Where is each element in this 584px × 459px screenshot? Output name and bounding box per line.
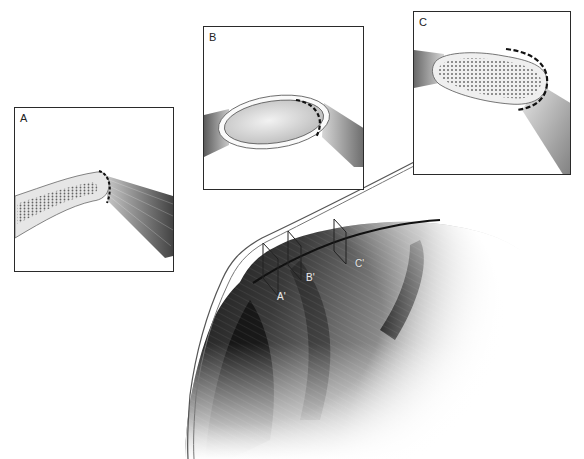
- site-label-b-prime: B': [306, 273, 315, 283]
- site-label-a-prime: A': [277, 292, 286, 302]
- panel-a: A: [14, 107, 174, 272]
- site-label-c-prime: C': [355, 259, 364, 269]
- panel-a-drawing: [15, 108, 174, 272]
- panel-c-drawing: [414, 12, 571, 175]
- figure: A' B' C' A: [0, 0, 584, 459]
- muscle-body: [180, 200, 540, 459]
- panel-c: C: [413, 11, 571, 175]
- tendon-fibers: [107, 176, 173, 258]
- panel-b: B: [203, 26, 364, 190]
- panel-b-drawing: [204, 27, 364, 190]
